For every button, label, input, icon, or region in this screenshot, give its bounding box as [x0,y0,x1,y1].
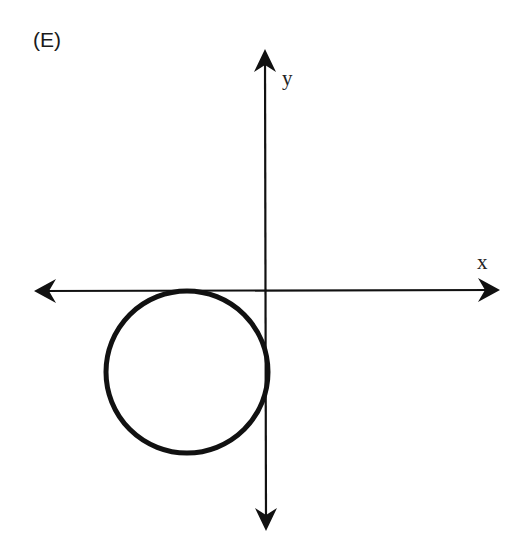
circle [106,291,268,453]
x-axis-label: x [477,250,488,275]
coordinate-diagram [0,0,528,559]
y-axis-label: y [282,66,293,91]
x-axis [34,278,500,303]
